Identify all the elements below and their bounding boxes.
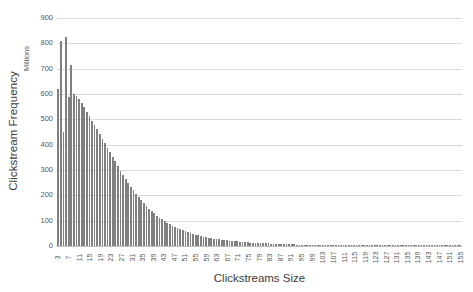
x-axis-tick-47: 47 bbox=[170, 247, 180, 273]
x-axis-tick-text: 67 bbox=[224, 254, 231, 262]
x-axis-tick-text: 99 bbox=[309, 254, 316, 262]
x-axis-tick-19: 19 bbox=[96, 247, 106, 273]
clickstream-frequency-bar-chart: Clickstream Frequency Millions 010020030… bbox=[0, 0, 473, 292]
y-axis-tick-300: 300 bbox=[40, 166, 53, 174]
y-axis-tick-200: 200 bbox=[40, 192, 53, 200]
x-axis-tick-87: 87 bbox=[276, 247, 286, 273]
x-axis-tick-text: 59 bbox=[203, 254, 210, 262]
x-axis-tick-text: 39 bbox=[150, 254, 157, 262]
x-axis-tick-text: 147 bbox=[436, 252, 443, 264]
x-axis-tick-text: 139 bbox=[415, 252, 422, 264]
x-axis-tick-text: 75 bbox=[245, 254, 252, 262]
y-axis-tick-500: 500 bbox=[40, 116, 53, 124]
x-axis-tick-111: 111 bbox=[339, 247, 349, 273]
x-axis-tick-text: 15 bbox=[87, 254, 94, 262]
bar-slot bbox=[459, 18, 462, 246]
x-axis-tick-text: 47 bbox=[171, 254, 178, 262]
x-axis-tick-7: 7 bbox=[64, 247, 74, 273]
x-axis-tick-text: 23 bbox=[108, 254, 115, 262]
y-axis-tick-800: 800 bbox=[40, 40, 53, 48]
x-axis-tick-91: 91 bbox=[286, 247, 296, 273]
x-axis-tick-text: 71 bbox=[235, 254, 242, 262]
x-axis-tick-text: 115 bbox=[351, 252, 358, 263]
x-axis-tick-123: 123 bbox=[371, 247, 381, 273]
x-axis-tick-95: 95 bbox=[297, 247, 307, 273]
x-axis-tick-147: 147 bbox=[435, 247, 445, 273]
x-axis-tick-63: 63 bbox=[212, 247, 222, 273]
x-axis-tick-text: 43 bbox=[161, 254, 168, 262]
x-axis-tick-99: 99 bbox=[307, 247, 317, 273]
x-axis-tick-text: 135 bbox=[404, 252, 411, 264]
x-axis-tick-text: 127 bbox=[383, 252, 390, 264]
x-axis-tick-text: 131 bbox=[394, 252, 401, 264]
x-axis-tick-23: 23 bbox=[106, 247, 116, 273]
x-axis-tick-text: 95 bbox=[298, 254, 305, 262]
x-axis-tick-text: 107 bbox=[330, 252, 337, 264]
x-axis-tick-151: 151 bbox=[445, 247, 455, 273]
x-axis-tick-text: 11 bbox=[76, 254, 83, 261]
x-axis-tick-75: 75 bbox=[244, 247, 254, 273]
x-axis-tick-text: 7 bbox=[65, 256, 72, 260]
x-axis-tick-67: 67 bbox=[223, 247, 233, 273]
y-axis-tick-100: 100 bbox=[40, 217, 53, 225]
y-axis-tick-400: 400 bbox=[40, 141, 53, 149]
x-axis-tick-119: 119 bbox=[360, 247, 370, 273]
x-axis-tick-text: 111 bbox=[341, 252, 348, 263]
x-axis-tick-59: 59 bbox=[202, 247, 212, 273]
x-axis-tick-text: 51 bbox=[182, 254, 189, 262]
x-axis-tick-127: 127 bbox=[382, 247, 392, 273]
x-axis-tick-text: 123 bbox=[372, 252, 379, 264]
x-axis-tick-text: 87 bbox=[277, 254, 284, 262]
x-axis-tick-text: 79 bbox=[256, 254, 263, 262]
x-axis-tick-text: 119 bbox=[362, 252, 369, 263]
x-axis-tick-text: 151 bbox=[447, 252, 454, 264]
x-axis-tick-text: 103 bbox=[320, 252, 327, 264]
bar-series bbox=[57, 18, 462, 246]
x-axis-tick-11: 11 bbox=[75, 247, 85, 273]
x-axis-tick-3: 3 bbox=[53, 247, 63, 273]
x-axis-tick-text: 63 bbox=[214, 254, 221, 262]
x-axis-tick-text: 35 bbox=[140, 254, 147, 262]
x-axis-tick-143: 143 bbox=[424, 247, 434, 273]
x-axis-tick-51: 51 bbox=[180, 247, 190, 273]
x-axis-tick-text: 143 bbox=[425, 252, 432, 264]
x-axis-tick-115: 115 bbox=[350, 247, 360, 273]
x-axis-tick-55: 55 bbox=[191, 247, 201, 273]
x-axis-tick-27: 27 bbox=[117, 247, 127, 273]
x-axis-tick-155: 155 bbox=[456, 247, 466, 273]
x-axis-tick-103: 103 bbox=[318, 247, 328, 273]
x-axis-tick-text: 31 bbox=[129, 254, 136, 262]
x-axis-tick-text: 155 bbox=[457, 252, 464, 264]
y-axis-tick-600: 600 bbox=[40, 90, 53, 98]
x-axis-tick-labels: 3711151923273135394347515559636771757983… bbox=[57, 247, 462, 273]
x-axis-tick-83: 83 bbox=[265, 247, 275, 273]
x-axis-tick-text: 19 bbox=[97, 254, 104, 262]
bar bbox=[459, 245, 461, 246]
y-axis-tick-labels: 0100200300400500600700800900 bbox=[28, 18, 56, 246]
y-axis-tick-700: 700 bbox=[40, 65, 53, 73]
x-axis-tick-107: 107 bbox=[329, 247, 339, 273]
x-axis-tick-139: 139 bbox=[413, 247, 423, 273]
y-axis-tick-900: 900 bbox=[40, 14, 53, 22]
x-axis-tick-35: 35 bbox=[138, 247, 148, 273]
x-axis-tick-text: 3 bbox=[55, 256, 62, 260]
x-axis-tick-15: 15 bbox=[85, 247, 95, 273]
x-axis-tick-71: 71 bbox=[233, 247, 243, 273]
plot-area bbox=[57, 18, 462, 246]
x-axis-tick-text: 27 bbox=[118, 254, 125, 262]
y-axis-title-label: Clickstream Frequency bbox=[7, 71, 19, 191]
x-axis-tick-43: 43 bbox=[159, 247, 169, 273]
x-axis-tick-135: 135 bbox=[403, 247, 413, 273]
x-axis-tick-31: 31 bbox=[127, 247, 137, 273]
x-axis-tick-79: 79 bbox=[255, 247, 265, 273]
x-axis-title: Clickstreams Size bbox=[57, 272, 462, 284]
x-axis-tick-131: 131 bbox=[392, 247, 402, 273]
x-axis-tick-text: 83 bbox=[267, 254, 274, 262]
x-axis-tick-text: 91 bbox=[288, 254, 295, 262]
x-axis-tick-text: 55 bbox=[192, 254, 199, 262]
x-axis-tick-39: 39 bbox=[149, 247, 159, 273]
